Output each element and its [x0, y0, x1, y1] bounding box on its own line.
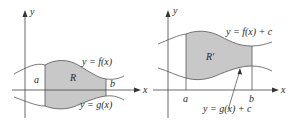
upper-curve-label: y = f(x)	[82, 57, 112, 67]
bound-a-label: a	[183, 94, 188, 104]
y-axis-label: y	[173, 6, 177, 16]
region-label: R'	[206, 52, 214, 62]
bound-b-label: b	[249, 94, 254, 104]
left-panel: y x y = f(x) y = g(x) R a b	[0, 0, 150, 127]
lower-curve-label: y = g(x)	[80, 100, 112, 110]
region-r-prime-shade	[186, 31, 252, 79]
x-axis-arrow-icon	[272, 88, 279, 93]
lower-curve-label: y = g(x) + c	[203, 104, 251, 114]
x-axis-label: x	[143, 85, 147, 95]
upper-curve-label: y = f(x) + c	[226, 27, 272, 37]
x-axis-arrow-icon	[134, 88, 141, 93]
region-label: R	[70, 73, 76, 83]
y-axis-label: y	[30, 7, 34, 17]
x-axis-label: x	[281, 85, 285, 95]
bound-a-label: a	[34, 75, 39, 85]
y-axis-arrow-icon	[23, 10, 28, 17]
right-panel: y x y = f(x) + c y = g(x) + c R' a b	[148, 0, 298, 127]
leader-arrow-icon	[238, 68, 243, 75]
bound-b-label: b	[110, 79, 115, 89]
left-graph	[0, 0, 150, 127]
y-axis-arrow-icon	[166, 10, 171, 17]
